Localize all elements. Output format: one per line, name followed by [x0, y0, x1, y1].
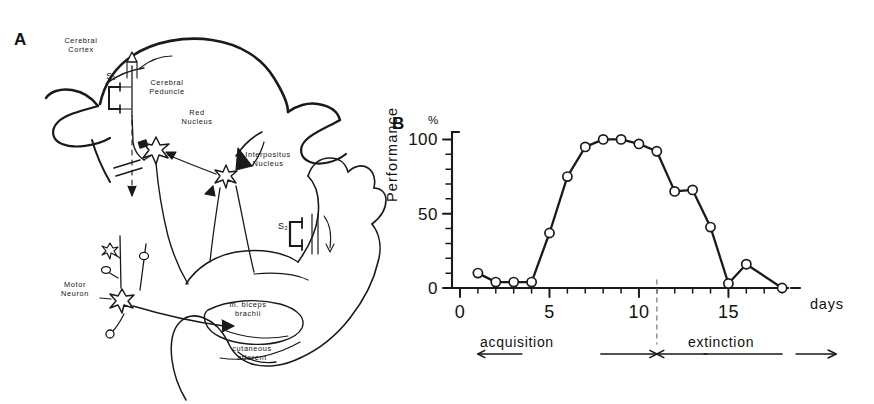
label-motor-neuron: Motor Neuron: [46, 280, 104, 298]
data-point-day-18: [778, 283, 787, 292]
data-point-day-12: [670, 187, 679, 196]
data-point-day-7: [581, 142, 590, 151]
x-axis-title: days: [810, 296, 844, 312]
panel-b-performance-chart: B % Performance 050100051015 days acquis…: [388, 106, 874, 366]
series-line: [478, 139, 782, 288]
x-tick-label-10: 10: [628, 302, 649, 322]
label-stimulus-s2: S₂: [276, 222, 290, 231]
data-point-day-3: [509, 278, 518, 287]
data-point-day-2: [491, 278, 500, 287]
x-tick-label-5: 5: [544, 302, 555, 322]
data-point-day-16: [742, 260, 751, 269]
data-point-day-11: [652, 147, 661, 156]
label-biceps-brachii: m. biceps brachii: [216, 300, 280, 318]
label-cerebral-peduncle: Cerebral Peduncle: [130, 78, 204, 96]
panel-a-neural-circuit: A: [0, 0, 400, 404]
acquisition-phase-label: acquisition: [480, 334, 554, 350]
data-point-day-5: [545, 228, 554, 237]
label-cutaneous-afferent: cutaneous afferent: [216, 344, 288, 362]
extinction-phase-label: extinction: [688, 334, 754, 350]
data-point-day-8: [599, 135, 608, 144]
label-cerebral-cortex: Cerebral Cortex: [42, 36, 120, 54]
label-red-nucleus: Red Nucleus: [168, 108, 226, 126]
y-tick-label-100: 100: [408, 130, 438, 149]
data-point-day-1: [473, 269, 482, 278]
y-tick-label-50: 50: [418, 205, 438, 224]
data-point-day-6: [563, 172, 572, 181]
label-stimulus-s1: S₁: [104, 72, 118, 81]
data-point-day-10: [634, 139, 643, 148]
x-tick-label-0: 0: [455, 302, 466, 322]
data-point-day-13: [688, 185, 697, 194]
x-tick-label-15: 15: [718, 302, 739, 322]
data-point-day-4: [527, 278, 536, 287]
neural-circuit-drawing: [0, 0, 400, 404]
data-point-day-14: [706, 223, 715, 232]
y-tick-label-0: 0: [428, 279, 438, 298]
label-interpositus-nucleus: Interpositus Nucleus: [232, 150, 304, 168]
figure-root: A: [0, 0, 874, 404]
performance-line-chart: 050100051015: [388, 106, 874, 366]
data-point-day-9: [617, 135, 626, 144]
data-point-day-15: [724, 279, 733, 288]
